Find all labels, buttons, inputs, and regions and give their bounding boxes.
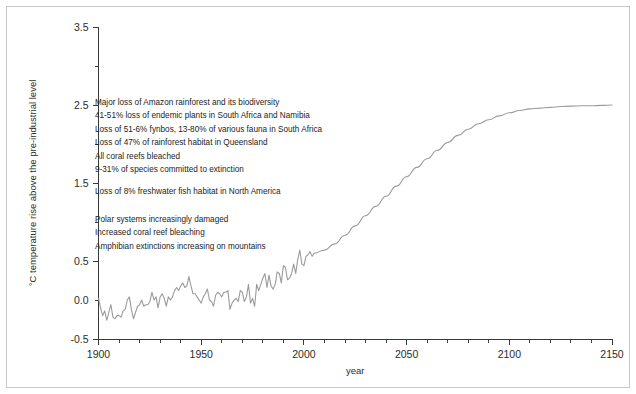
x-tick-label-1900: 1900: [87, 348, 111, 360]
annotation-block-lower: Polar systems increasingly damagedIncrea…: [95, 215, 266, 251]
annotation-upper-line-6: 9-31% of species committed to extinction: [95, 165, 244, 174]
y-tick-label-0.5: 0.5: [74, 255, 89, 267]
y-tick-label--0.5: -0.5: [70, 333, 88, 345]
annotation-lower-line-2: Increased coral reef bleaching: [95, 228, 205, 237]
y-axis-title: °C temperature rise above the pre-indust…: [27, 80, 38, 287]
x-tick-label-2050: 2050: [395, 348, 419, 360]
y-tick-label-3.5: 3.5: [74, 21, 89, 33]
annotation-upper-line-3: Loss of 51-6% fynbos, 13-80% of various …: [95, 125, 323, 134]
axes: [99, 27, 612, 339]
annotation-lower-line-1: Polar systems increasingly damaged: [95, 215, 229, 224]
x-tick-label-2150: 2150: [600, 348, 624, 360]
annotation-lower-line-3: Amphibian extinctions increasing on moun…: [95, 242, 266, 251]
x-axis-title: year: [346, 365, 364, 376]
x-tick-label-2000: 2000: [292, 348, 316, 360]
y-axis-tick-labels: -0.50.51.52.53.50.0: [70, 21, 88, 345]
chart-svg: 190019502000205021002150 -0.50.51.52.53.…: [0, 0, 636, 394]
y-tick-label-1.5: 1.5: [74, 177, 89, 189]
annotation-block-upper: Major loss of Amazon rainforest and its …: [95, 98, 323, 174]
x-tick-label-1950: 1950: [190, 348, 214, 360]
annotation-middle-line-1: Loss of 8% freshwater fish habitat in No…: [95, 187, 281, 196]
chart-figure: 190019502000205021002150 -0.50.51.52.53.…: [0, 0, 636, 394]
annotation-block-middle: Loss of 8% freshwater fish habitat in No…: [95, 187, 281, 196]
annotation-upper-line-4: Loss of 47% of rainforest habitat in Que…: [95, 138, 268, 147]
y-tick-label-0.0: 0.0: [74, 294, 89, 306]
annotation-upper-line-1: Major loss of Amazon rainforest and its …: [95, 98, 280, 107]
y-tick-label-2.5: 2.5: [74, 99, 89, 111]
x-axis-ticks: [99, 339, 612, 345]
annotation-upper-line-2: 41-51% loss of endemic plants in South A…: [95, 111, 310, 120]
annotation-upper-line-5: All coral reefs bleached: [95, 152, 181, 161]
x-tick-label-2100: 2100: [498, 348, 522, 360]
plot-area: 190019502000205021002150 -0.50.51.52.53.…: [0, 0, 636, 394]
x-axis-tick-labels: 190019502000205021002150: [87, 348, 624, 360]
y-axis-ticks: [93, 27, 99, 339]
